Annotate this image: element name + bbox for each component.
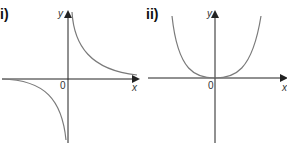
graphs-canvas	[0, 0, 287, 145]
graph-i-curve	[2, 12, 137, 140]
graph-ii-curve	[172, 16, 261, 78]
graph-i-axes	[2, 12, 138, 143]
